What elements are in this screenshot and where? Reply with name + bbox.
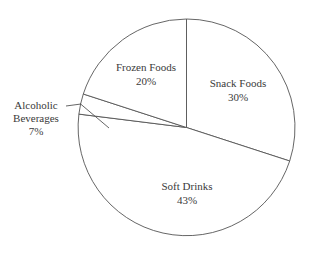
- pie-label-frozen-foods-percent: 20%: [103, 75, 189, 89]
- pie-label-snack-foods: Snack Foods 30%: [200, 77, 276, 104]
- pie-label-snack-foods-percent: 30%: [200, 91, 276, 105]
- pie-label-soft-drinks-percent: 43%: [147, 194, 227, 208]
- pie-label-alcoholic-beverages: Alcoholic Beverages 7%: [4, 99, 68, 138]
- pie-label-soft-drinks: Soft Drinks 43%: [147, 180, 227, 207]
- alcoholic-beverages-leader-line: [66, 104, 81, 106]
- pie-label-alcoholic-beverages-name-line2: Beverages: [4, 112, 68, 125]
- pie-label-alcoholic-beverages-name-line1: Alcoholic: [4, 99, 68, 112]
- pie-label-alcoholic-beverages-percent: 7%: [4, 125, 68, 138]
- pie-label-frozen-foods: Frozen Foods 20%: [103, 61, 189, 88]
- pie-label-soft-drinks-name: Soft Drinks: [147, 180, 227, 194]
- pie-label-snack-foods-name: Snack Foods: [200, 77, 276, 91]
- pie-label-frozen-foods-name: Frozen Foods: [103, 61, 189, 75]
- pie-chart-figure: Frozen Foods 20% Snack Foods 30% Soft Dr…: [0, 0, 313, 257]
